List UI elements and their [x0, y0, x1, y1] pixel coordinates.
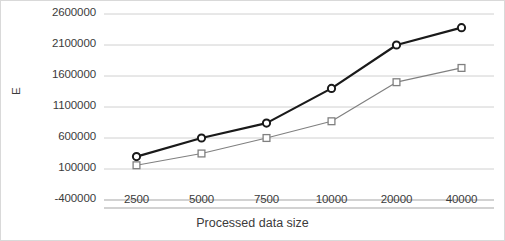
data-point-marker: [133, 162, 140, 169]
y-axis-title: E: [10, 87, 22, 95]
data-point-marker: [328, 85, 335, 92]
data-point-marker: [263, 120, 270, 127]
data-point-marker: [393, 41, 400, 48]
series-line-circle: [137, 28, 462, 157]
data-point-marker: [198, 134, 205, 141]
y-tick-label: 1600000: [22, 68, 96, 80]
data-point-marker: [133, 153, 140, 160]
y-tick-label: -400000: [22, 192, 96, 204]
x-tick-label: 40000: [422, 193, 502, 205]
data-series-group: [133, 24, 465, 169]
data-point-marker: [458, 24, 465, 31]
y-tick-label: 600000: [22, 130, 96, 142]
series-line-square: [137, 68, 462, 165]
y-tick-label: 2100000: [22, 37, 96, 49]
y-tick-label: 100000: [22, 161, 96, 173]
y-tick-label: 1100000: [22, 99, 96, 111]
data-point-marker: [458, 65, 465, 72]
data-point-marker: [393, 79, 400, 86]
gridlines: [104, 14, 494, 208]
x-axis-title: Processed data size: [0, 216, 505, 230]
data-point-marker: [263, 135, 270, 142]
data-point-marker: [198, 150, 205, 157]
chart-container: -400000100000600000110000016000002100000…: [0, 0, 505, 241]
y-tick-label: 2600000: [22, 6, 96, 18]
data-point-marker: [328, 118, 335, 125]
